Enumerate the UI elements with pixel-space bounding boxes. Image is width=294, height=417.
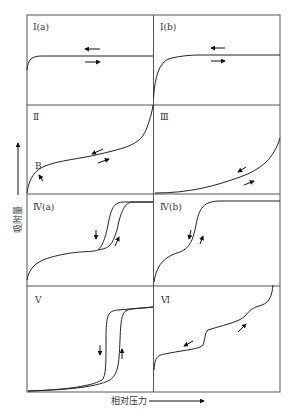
point-B-arrow-icon: [39, 175, 43, 181]
adsorption-arrow-icon: [244, 181, 254, 185]
adsorption-branch: [27, 202, 153, 280]
adsorption-arrow-icon: [238, 324, 246, 332]
panel-type-Ia: Ⅰ(a): [27, 22, 153, 70]
desorption-arrow-icon: [189, 230, 191, 239]
isotherm-curve: [154, 285, 273, 370]
panel-type-Ib: Ⅰ(b): [154, 22, 281, 98]
panel-label: Ⅴ: [34, 295, 42, 305]
isotherm-curve: [154, 201, 280, 282]
adsorption-branch: [28, 307, 153, 391]
desorption-arrow-icon: [238, 167, 246, 172]
panel-label: Ⅰ(a): [33, 22, 49, 32]
isotherm-curve: [155, 138, 280, 193]
panel-label: Ⅱ: [33, 112, 39, 122]
x-axis: 相对压力: [111, 395, 204, 406]
panel-type-V: Ⅴ: [28, 295, 153, 391]
y-axis-label: 吸附量: [12, 206, 23, 233]
isotherm-curve: [27, 105, 153, 193]
panel-grid: [27, 15, 280, 392]
adsorption-arrow-icon: [115, 237, 119, 246]
isotherm-curve: [27, 56, 153, 70]
panel-type-IVb: Ⅳ(b): [154, 201, 280, 282]
adsorption-arrow-icon: [98, 159, 109, 163]
panel-label: Ⅰ(b): [160, 22, 176, 32]
panel-type-VI: Ⅵ: [154, 285, 273, 370]
desorption-arrow-icon: [184, 341, 193, 346]
panel-label: Ⅳ(b): [160, 202, 182, 212]
y-axis: 吸附量: [12, 143, 23, 233]
panel-type-II: Ⅱ B: [27, 105, 153, 193]
panel-type-IVa: Ⅳ(a): [27, 202, 153, 280]
panel-label: Ⅳ(a): [33, 202, 54, 212]
desorption-branch: [98, 202, 153, 250]
adsorption-arrow-icon: [200, 236, 203, 244]
panel-label: Ⅲ: [160, 112, 169, 122]
panel-label: Ⅵ: [160, 295, 170, 305]
panel-type-III: Ⅲ: [155, 112, 280, 193]
isotherm-figure: Ⅰ(a) Ⅰ(b) Ⅱ B Ⅲ Ⅳ(a) Ⅳ(b): [0, 0, 294, 417]
x-axis-label: 相对压力: [111, 395, 147, 406]
desorption-branch: [28, 307, 153, 391]
